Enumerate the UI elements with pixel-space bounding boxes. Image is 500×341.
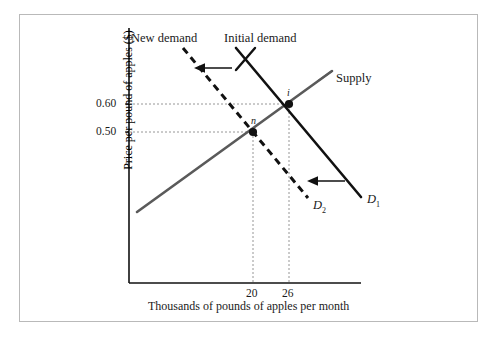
equilibrium-point-n — [249, 128, 257, 136]
supply-leader-line — [318, 71, 332, 81]
xtick-label-20: 20 — [246, 287, 258, 299]
d1-letter: D — [367, 192, 376, 206]
upper-shift-arrow — [194, 63, 232, 72]
ytick-label-050: 0.50 — [96, 125, 116, 137]
new-demand-label: New demand — [131, 31, 197, 46]
ytick-label-060: 0.60 — [96, 97, 116, 109]
initial-demand-label: Initial demand — [224, 31, 297, 46]
equilibrium-point-i — [285, 100, 293, 108]
d2-label: D2 — [313, 198, 326, 215]
d1-label: D1 — [367, 192, 380, 209]
lower-shift-arrow — [307, 176, 345, 185]
y-axis-title-wrapper: Price per pound of apples ($) — [120, 30, 136, 170]
y-axis-title: Price per pound of apples ($) — [120, 30, 136, 170]
supply-label: Supply — [336, 71, 371, 86]
figure-container: New demand Initial demand Supply D1 D2 i… — [0, 0, 500, 341]
equilibrium-label-i: i — [287, 87, 290, 98]
d2-letter: D — [313, 198, 322, 212]
d2-subscript: 2 — [322, 206, 326, 215]
d1-subscript: 1 — [376, 200, 380, 209]
equilibrium-label-n: n — [251, 115, 256, 126]
xtick-label-26: 26 — [282, 287, 294, 299]
x-axis-title: Thousands of pounds of apples per month — [148, 299, 349, 314]
